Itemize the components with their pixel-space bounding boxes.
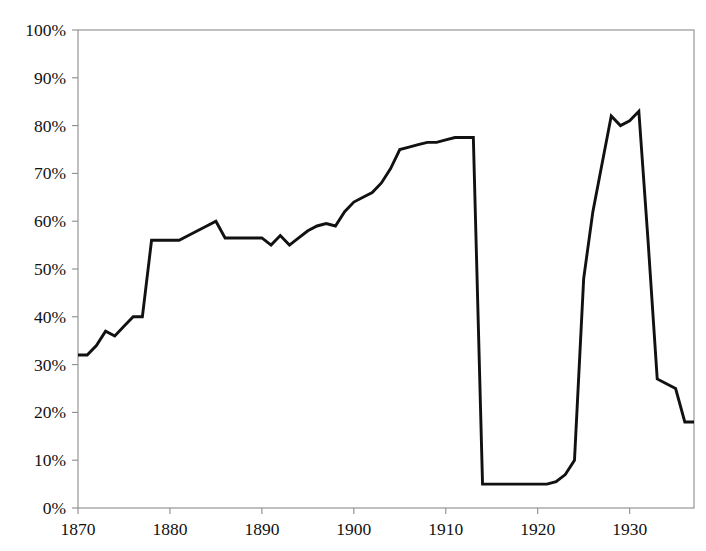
y-tick-label: 90% [34,68,66,88]
x-tick-label: 1920 [520,519,555,539]
chart-title [0,0,706,12]
y-tick-label: 10% [34,450,66,470]
line-chart: 100%90%80%70%60%50%40%30%20%10%0% 187018… [0,0,706,551]
y-tick-label: 40% [34,307,66,327]
y-tick-label: 80% [34,116,66,136]
y-tick-label: 100% [25,20,66,40]
data-line-0 [78,111,694,484]
y-tick-label: 50% [34,259,66,279]
y-tick-label: 60% [34,211,66,231]
data-series-group [78,111,694,484]
chart-container: 100%90%80%70%60%50%40%30%20%10%0% 187018… [0,0,706,551]
y-tick-label: 70% [34,163,66,183]
y-axis-ticks: 100%90%80%70%60%50%40%30%20%10%0% [25,20,78,518]
y-tick-label: 20% [34,402,66,422]
plot-frame [78,30,694,508]
x-tick-label: 1890 [244,519,279,539]
y-tick-label: 30% [34,355,66,375]
x-axis-ticks: 1870188018901900191019201930 [61,508,648,539]
x-tick-label: 1900 [336,519,371,539]
y-tick-label: 0% [43,498,66,518]
x-tick-label: 1880 [152,519,187,539]
x-tick-label: 1910 [428,519,463,539]
x-tick-label: 1870 [61,519,96,539]
x-tick-label: 1930 [612,519,647,539]
